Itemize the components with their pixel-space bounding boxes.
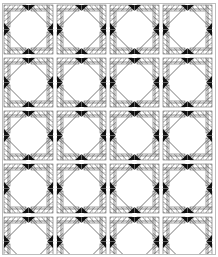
quilt-figure: Black and white line-art quilt pattern: … — [0, 0, 218, 257]
figure-border — [2, 3, 216, 255]
